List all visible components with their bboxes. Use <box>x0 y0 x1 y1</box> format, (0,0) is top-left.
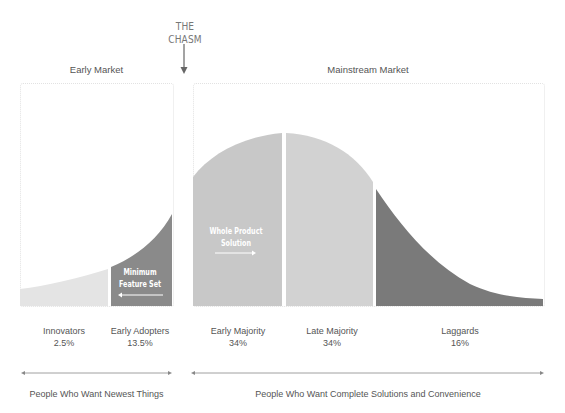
footer-right-label: People Who Want Complete Solutions and C… <box>193 389 543 399</box>
left-double-arrow-icon <box>21 371 172 375</box>
footer-arrows <box>0 0 565 413</box>
right-double-arrow-icon <box>191 371 544 375</box>
footer-left-label: People Who Want Newest Things <box>20 389 173 399</box>
